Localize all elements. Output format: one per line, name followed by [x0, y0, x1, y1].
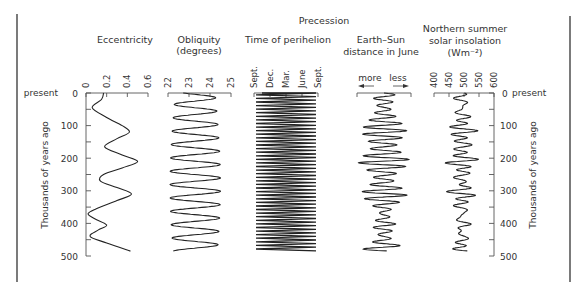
right-tick-label: 400: [500, 219, 517, 229]
perihelion-tick-label: Sept.: [249, 66, 259, 88]
insolation-tick-label: 500: [459, 72, 469, 88]
obliquity-unit: (degrees): [176, 45, 222, 56]
perihelion-curve: [256, 93, 316, 251]
left-y-axis-label: Thousands of years ago: [40, 121, 50, 230]
eccentricity-curve: [88, 93, 138, 251]
right-present-label: present: [512, 88, 547, 98]
more-label: more: [358, 73, 382, 83]
obliquity-curve: [170, 93, 220, 251]
obliquity-title: Obliquity: [178, 34, 221, 45]
obliquity-tick-label: 24: [205, 77, 215, 88]
left-tick-label: 200: [61, 154, 78, 164]
insolation-tick-label: 550: [474, 72, 484, 88]
right-tick-label: 0: [502, 89, 508, 99]
eccentricity-tick-label: 0.6: [143, 74, 153, 88]
left-time-axis: 0100200300400500 present Thousands of ye…: [24, 88, 91, 262]
right-tick-label: 100: [500, 121, 517, 131]
left-tick-label: 0: [72, 89, 78, 99]
perihelion-tick-label: Mar.: [281, 70, 291, 88]
insolation-tick-label: 450: [444, 72, 454, 88]
eccentricity-title: Eccentricity: [97, 34, 153, 45]
arrow-right-icon: [403, 84, 409, 88]
earth-sun-title: Earth–Sun: [357, 34, 405, 45]
right-tick-label: 500: [500, 252, 517, 262]
left-tick-label: 100: [61, 121, 78, 131]
right-tick-label: 200: [500, 154, 517, 164]
left-present-label: present: [24, 88, 59, 98]
orbital-cycles-chart: Precession Eccentricity Obliquity (degre…: [0, 0, 584, 282]
left-tick-label: 400: [61, 219, 78, 229]
perihelion-tick-label: June: [297, 69, 307, 89]
obliquity-tick-label: 25: [226, 77, 236, 88]
perihelion-tick-label: Dec.: [265, 69, 275, 88]
left-tick-label: 500: [61, 252, 78, 262]
insolation-unit: (Wm⁻²): [448, 47, 483, 58]
eccentricity-tick-label: 0.2: [102, 74, 112, 88]
obliquity-tick-label: 22: [163, 77, 173, 88]
insolation-tick-label: 600: [489, 72, 499, 88]
perihelion-title: Time of perihelion: [244, 34, 331, 45]
earth-sun-subtitle: distance in June: [343, 46, 419, 57]
insolation-tick-label: 400: [429, 72, 439, 88]
obliquity-tick-label: 23: [184, 77, 194, 88]
right-tick-label: 300: [500, 186, 517, 196]
less-label: less: [389, 73, 407, 83]
eccentricity-tick-label: 0.4: [122, 74, 132, 88]
precession-group-title: Precession: [299, 15, 350, 26]
eccentricity-tick-label: 0: [81, 83, 91, 88]
perihelion-tick-label: Sept.: [313, 66, 323, 88]
right-y-axis-label: Thousands of years ago: [528, 121, 538, 230]
insolation-curve: [445, 93, 478, 251]
earth-sun-distance-curve: [359, 93, 409, 251]
left-tick-label: 300: [61, 186, 78, 196]
right-time-axis: 0100200300400500 present Thousands of ye…: [489, 88, 547, 262]
insolation-subtitle: solar insolation: [429, 35, 501, 46]
arrow-left-icon: [358, 84, 364, 88]
insolation-title: Northern summer: [423, 23, 508, 34]
